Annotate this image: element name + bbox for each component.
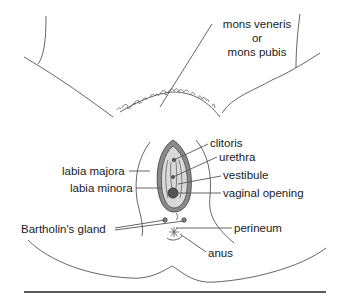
label-labia-minora: labia minora [70, 182, 133, 195]
perineum-curve [176, 213, 178, 220]
label-urethra: urethra [219, 151, 255, 164]
label-mons-veneris: mons veneris [214, 18, 300, 31]
label-mons-pubis: mons pubis [214, 46, 300, 59]
mons-curve [120, 92, 220, 117]
label-or: or [214, 32, 300, 45]
left-hip-outline [38, 16, 46, 64]
label-vestibule: vestibule [223, 169, 268, 182]
right-thigh-crease [222, 53, 320, 113]
label-anus: anus [208, 247, 233, 260]
left-labia-majora-outline [136, 142, 150, 236]
mons-leader [160, 24, 212, 107]
anus-leader [180, 234, 206, 252]
left-thigh-crease [24, 57, 113, 117]
anus-mark [169, 227, 179, 237]
vaginal-opening [168, 188, 178, 198]
label-labia-majora: labia majora [62, 165, 125, 178]
label-perineum: perineum [234, 222, 282, 235]
buttocks-outline [28, 240, 326, 282]
label-bartholins-gland: Bartholin's gland [21, 223, 106, 236]
anus-curve [167, 236, 182, 240]
label-clitoris: clitoris [210, 137, 243, 150]
label-vaginal-opening: vaginal opening [223, 187, 304, 200]
